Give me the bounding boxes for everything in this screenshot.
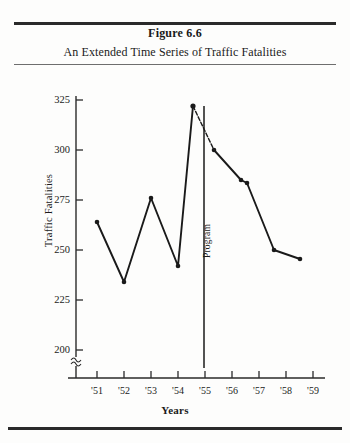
x-tick-label: '52 bbox=[109, 385, 139, 396]
data-line-post bbox=[214, 150, 300, 259]
axis-break-icon bbox=[71, 362, 81, 366]
x-tick-label: '54 bbox=[163, 385, 193, 396]
x-tick-label: '57 bbox=[244, 385, 274, 396]
data-point bbox=[245, 181, 250, 186]
x-tick-label: '58 bbox=[271, 385, 301, 396]
data-point bbox=[122, 280, 127, 285]
x-tick-label: '56 bbox=[217, 385, 247, 396]
data-point bbox=[298, 257, 303, 262]
program-annotation-label: Program bbox=[202, 224, 212, 258]
chart-plot-area: Traffic Fatalities Years Program 325 300… bbox=[0, 0, 350, 443]
axis-break-icon bbox=[71, 358, 81, 362]
y-tick-label: 275 bbox=[38, 194, 70, 205]
y-tick-label: 325 bbox=[38, 94, 70, 105]
x-tick-label: '51 bbox=[82, 385, 112, 396]
bottom-rule bbox=[8, 427, 342, 430]
x-tick-label: '59 bbox=[298, 385, 328, 396]
x-tick-label: '55 bbox=[190, 385, 220, 396]
data-point bbox=[190, 103, 195, 108]
x-axis-title: Years bbox=[0, 404, 350, 416]
y-tick-label: 225 bbox=[38, 294, 70, 305]
data-point bbox=[176, 264, 181, 269]
y-tick-label: 200 bbox=[38, 344, 70, 355]
data-point bbox=[239, 178, 244, 183]
x-tick-label: '53 bbox=[136, 385, 166, 396]
data-point bbox=[212, 148, 217, 153]
data-line-pre bbox=[97, 106, 193, 282]
y-tick-label: 250 bbox=[38, 244, 70, 255]
data-point bbox=[95, 220, 100, 225]
y-tick-label: 300 bbox=[38, 144, 70, 155]
data-point bbox=[149, 196, 154, 201]
figure-page: Figure 6.6 An Extended Time Series of Tr… bbox=[0, 0, 350, 443]
data-point bbox=[272, 248, 277, 253]
y-axis-title: Traffic Fatalities bbox=[43, 141, 54, 281]
